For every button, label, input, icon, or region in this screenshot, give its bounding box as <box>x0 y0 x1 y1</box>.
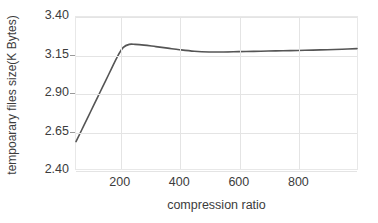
gridline-horizontal <box>76 56 357 57</box>
x-axis-tick-label: 200 <box>97 175 143 190</box>
y-axis-tick-label: 3.15 <box>35 48 69 61</box>
line-chart: tempoarary files size(K Bytes) 2.402.652… <box>0 0 378 223</box>
y-axis-tick-mark <box>70 93 75 94</box>
gridline-vertical <box>299 17 300 169</box>
x-axis-tick-labels: 200400600800 <box>0 175 378 191</box>
y-axis-title-container: tempoarary files size(K Bytes) <box>0 0 24 190</box>
gridline-horizontal <box>76 17 357 18</box>
y-axis-tick-label: 3.40 <box>35 9 69 22</box>
y-axis-tick-mark <box>70 55 75 56</box>
plot-area <box>75 16 358 170</box>
y-axis-tick-label: 2.90 <box>35 86 69 99</box>
gridline-horizontal <box>76 94 357 95</box>
series-line-temporary-files-size <box>76 17 357 169</box>
gridline-vertical <box>240 17 241 169</box>
x-axis-tick-label: 400 <box>156 175 202 190</box>
y-axis-tick-label: 2.65 <box>35 125 69 138</box>
gridline-vertical <box>121 17 122 169</box>
gridline-vertical <box>180 17 181 169</box>
x-axis-tick-label: 800 <box>275 175 321 190</box>
x-axis-tick-label: 600 <box>216 175 262 190</box>
gridline-horizontal <box>76 133 357 134</box>
y-axis-tick-mark <box>70 132 75 133</box>
x-axis-title: compression ratio <box>75 198 358 212</box>
gridline-horizontal <box>76 171 357 172</box>
y-axis-title: tempoarary files size(K Bytes) <box>5 15 19 174</box>
